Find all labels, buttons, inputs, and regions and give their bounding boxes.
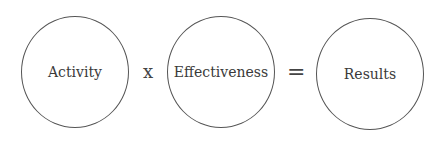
results-label: Results [344, 66, 396, 82]
results-circle: Results [316, 18, 424, 130]
effectiveness-circle: Effectiveness [167, 16, 275, 128]
activity-label: Activity [48, 64, 102, 80]
multiply-operator: x [143, 61, 153, 82]
activity-circle: Activity [21, 16, 129, 128]
effectiveness-label: Effectiveness [174, 64, 268, 80]
equals-operator: = [287, 59, 305, 84]
